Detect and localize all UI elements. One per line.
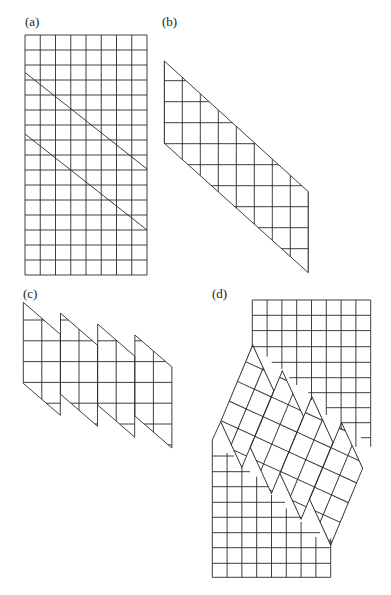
panel-a-grid	[25, 35, 147, 275]
grid-line	[223, 348, 272, 464]
panel-label-a: (a)	[25, 15, 39, 28]
rotated-sawtooth	[191, 339, 391, 550]
grid-line	[262, 510, 299, 527]
strip	[133, 320, 174, 453]
panel-label-d: (d)	[212, 287, 227, 300]
strip	[293, 408, 383, 551]
grid-line	[346, 408, 383, 425]
grid-line	[203, 459, 240, 476]
grid-line	[321, 467, 358, 484]
grid-line	[312, 426, 361, 542]
panel-label-c: (c)	[23, 287, 37, 300]
strip	[195, 339, 291, 496]
grid-line	[305, 506, 342, 523]
grid-line	[312, 392, 349, 409]
panel-label-b: (b)	[162, 15, 177, 28]
grid-line	[219, 420, 256, 437]
panel-d-assembled	[191, 300, 391, 577]
panel-b-parallelogram	[150, 40, 320, 290]
grid-line	[245, 455, 282, 472]
strip	[262, 391, 349, 527]
grid-line	[229, 495, 266, 512]
grid-line	[253, 436, 290, 453]
grid-line	[282, 400, 331, 516]
grid-line	[244, 361, 281, 378]
strip	[59, 308, 100, 445]
strip	[21, 297, 62, 445]
grid-line	[304, 412, 341, 429]
grid-line	[295, 431, 332, 448]
grid-line	[279, 471, 316, 488]
grid-line	[195, 479, 232, 496]
top-staircase-grid	[252, 300, 370, 447]
grid-line	[227, 400, 264, 417]
grid-line	[270, 396, 307, 413]
bottom-staircase-grid	[212, 440, 330, 577]
dissection-figure	[0, 0, 391, 595]
strip	[96, 319, 137, 445]
grid-line	[329, 447, 366, 464]
grid-line	[261, 416, 298, 433]
grid-line	[313, 486, 350, 503]
panel-c-sawtooth-strips	[21, 297, 174, 453]
grid-line	[236, 381, 273, 398]
joint-line	[212, 422, 220, 440]
grid-line	[287, 451, 324, 468]
